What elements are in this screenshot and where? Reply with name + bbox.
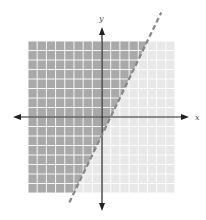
y-axis-down-arrow-icon <box>99 203 105 211</box>
x-axis-left-arrow-icon <box>13 114 21 120</box>
inequality-plot: x y <box>0 0 206 220</box>
y-axis-label: y <box>98 14 104 23</box>
x-axis-right-arrow-icon <box>181 114 189 120</box>
y-axis-up-arrow-icon <box>99 27 105 35</box>
x-axis-label: x <box>195 113 200 122</box>
